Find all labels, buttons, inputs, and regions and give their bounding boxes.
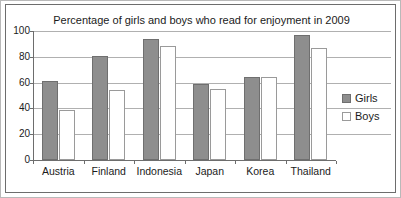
gridline [33, 83, 391, 84]
x-axis-tick-mark [33, 161, 34, 164]
x-axis-tick-mark [134, 161, 135, 164]
y-axis-tick-label: 80 [6, 52, 30, 62]
legend-label-girls: Girls [355, 92, 378, 104]
x-axis-tick-mark [185, 161, 186, 164]
chart-legend: Girls Boys [342, 89, 379, 125]
y-axis-tick-label: 20 [6, 129, 30, 139]
legend-swatch-boys-icon [342, 112, 351, 121]
chart-panel: Percentage of girls and boys who read fo… [5, 4, 396, 193]
y-axis-tick-label: 100 [6, 26, 30, 36]
x-axis-tick-mark [336, 161, 337, 164]
x-axis-label-indonesia: Indonesia [134, 165, 185, 177]
x-axis-label-thailand: Thailand [286, 165, 337, 177]
bar-thailand-girls [294, 35, 310, 160]
bar-finland-girls [92, 56, 108, 160]
x-axis-label-korea: Korea [235, 165, 286, 177]
gridline [33, 57, 391, 58]
legend-label-boys: Boys [355, 110, 379, 122]
y-axis-tick-label: 40 [6, 103, 30, 113]
x-axis-label-finland: Finland [84, 165, 135, 177]
bar-indonesia-girls [143, 39, 159, 160]
y-axis-tick-label: 0 [6, 155, 30, 165]
plot-area: 020406080100 AustriaFinlandIndonesiaJapa… [6, 5, 397, 194]
legend-item-girls: Girls [342, 89, 379, 107]
bar-austria-girls [42, 81, 58, 160]
bar-austria-boys [59, 110, 75, 160]
x-axis-label-austria: Austria [33, 165, 84, 177]
x-axis-tick-mark [286, 161, 287, 164]
gridline [33, 31, 391, 32]
legend-swatch-girls-icon [342, 94, 351, 103]
x-axis-tick-mark [84, 161, 85, 164]
bar-thailand-boys [311, 48, 327, 160]
bar-finland-boys [109, 90, 125, 160]
bar-japan-girls [193, 84, 209, 160]
x-axis-tick-mark [235, 161, 236, 164]
x-axis-label-japan: Japan [185, 165, 236, 177]
bar-korea-boys [261, 77, 277, 160]
chart-screenshot: Percentage of girls and boys who read fo… [0, 0, 401, 198]
bar-japan-boys [210, 89, 226, 160]
legend-item-boys: Boys [342, 107, 379, 125]
y-axis-line [33, 31, 34, 161]
y-axis-tick-label: 60 [6, 78, 30, 88]
bar-indonesia-boys [160, 46, 176, 160]
bar-korea-girls [244, 77, 260, 160]
